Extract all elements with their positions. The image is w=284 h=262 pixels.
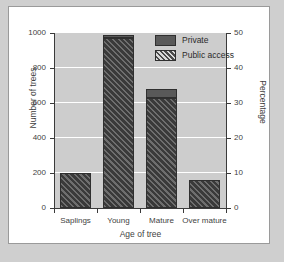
y-axis-right-tick-label: 20 (234, 134, 243, 142)
y-axis-right-label: Percentage (258, 80, 268, 123)
y-axis-left-tick-label: 0 (13, 204, 46, 212)
y-axis-left-tick-label: 400 (13, 134, 46, 142)
bar-segment-public-access (146, 98, 178, 208)
bar-young (103, 35, 135, 208)
y-axis-right-tick-label: 30 (234, 99, 243, 107)
y-axis-right-tick-label: 0 (234, 204, 238, 212)
bar-segment-private (146, 89, 178, 98)
legend-swatch-public-access-icon (155, 50, 176, 61)
y-axis-right-tick (227, 173, 231, 174)
bar-segment-public-access (103, 38, 135, 208)
bar-over-mature (189, 180, 221, 208)
y-axis-left-tick (50, 33, 54, 34)
y-axis-left-label: Number of trees (28, 68, 38, 129)
x-axis-tick (97, 209, 98, 213)
x-axis-tick (140, 209, 141, 213)
y-axis-right-tick (227, 208, 231, 209)
y-axis-left-tick-label: 1000 (13, 29, 46, 37)
x-axis-tick (54, 209, 55, 213)
legend-item-private: Private (155, 34, 247, 46)
y-axis-right-tick-label: 40 (234, 64, 243, 72)
bar-segment-private (103, 35, 135, 39)
y-axis-right-tick (227, 103, 231, 104)
y-axis-right-tick (227, 68, 231, 69)
x-axis-tick-label: Over mature (177, 216, 232, 225)
legend-label-public-access: Public access (182, 50, 234, 60)
legend-label-private: Private (182, 35, 208, 45)
bar-saplings (60, 173, 92, 208)
chart-screenshot: 02004006008001000 01020304050 SaplingsYo… (0, 0, 284, 262)
y-axis-left-tick (50, 138, 54, 139)
y-axis-right-tick-label: 10 (234, 169, 243, 177)
x-axis-label: Age of tree (54, 229, 227, 239)
bar-slot (60, 33, 92, 208)
y-axis-left-tick (50, 103, 54, 104)
bar-mature (146, 89, 178, 208)
bar-segment-public-access (189, 180, 221, 208)
bar-segment-public-access (60, 173, 92, 208)
y-axis-left-tick-label: 200 (13, 169, 46, 177)
y-axis-left-line (54, 33, 55, 209)
y-axis-right-tick (227, 138, 231, 139)
legend-swatch-private-icon (155, 35, 176, 46)
chart-card: 02004006008001000 01020304050 SaplingsYo… (8, 6, 270, 244)
x-axis-tick (226, 209, 227, 213)
x-axis-tick (183, 209, 184, 213)
bar-slot (103, 33, 135, 208)
legend: Private Public access (155, 34, 247, 64)
legend-item-public-access: Public access (155, 49, 247, 61)
y-axis-left-tick (50, 68, 54, 69)
y-axis-left-tick (50, 173, 54, 174)
